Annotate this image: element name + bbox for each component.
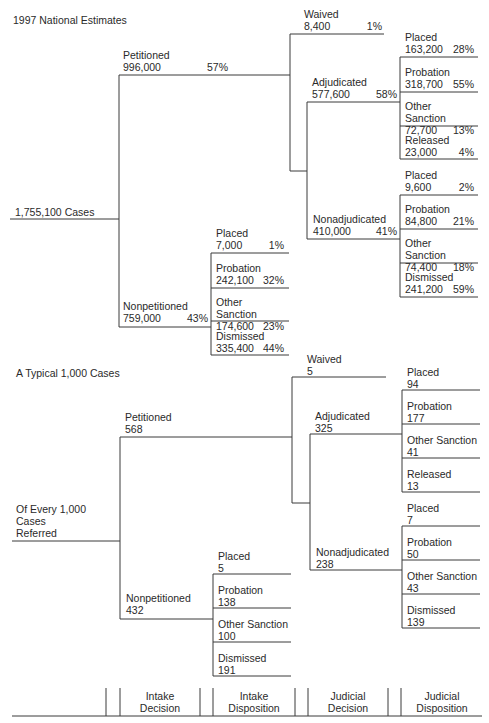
stage-header-intake-decision: IntakeDecision — [120, 690, 200, 714]
disposition-placed: Placed 5 — [218, 550, 250, 574]
disposition-dismissed: Dismissed 139 — [407, 604, 455, 628]
node-petitioned: Petitioned 996,00057% — [123, 49, 228, 73]
node-label: Placed — [407, 502, 439, 514]
node-count: 7 — [407, 514, 439, 526]
node-percent: 1% — [367, 20, 382, 32]
node-label: Other Sanction — [407, 434, 477, 446]
node-label: Dismissed — [218, 652, 266, 664]
node-percent: 41% — [376, 225, 397, 237]
node-label: Other Sanction — [405, 100, 474, 124]
node-waived: Waived 8,4001% — [304, 8, 382, 32]
node-label: Dismissed — [405, 271, 474, 283]
node-percent: 58% — [376, 88, 397, 100]
disposition-placed: Placed 7 — [407, 502, 439, 526]
node-adjudicated: Adjudicated 325 — [315, 410, 370, 434]
node-label: Probation — [216, 262, 284, 274]
node-percent: 32% — [263, 274, 284, 286]
node-label: Waived — [304, 8, 382, 20]
node-count: 241,20059% — [405, 283, 474, 295]
disposition-released: Released 23,0004% — [405, 134, 474, 158]
node-count: 568 — [125, 423, 172, 435]
section-title-national-estimates: 1997 National Estimates — [13, 14, 127, 26]
disposition-placed: Placed 9,6002% — [405, 169, 474, 193]
node-label: Placed — [405, 31, 474, 43]
node-count: 13 — [407, 480, 451, 492]
node-label: Dismissed — [216, 330, 284, 342]
node-label: Other Sanction — [405, 237, 474, 261]
disposition-probation: Probation 84,80021% — [405, 203, 474, 227]
node-label: Other Sanction — [216, 296, 284, 320]
node-percent: 43% — [187, 312, 208, 324]
stage-header-judicial-decision: JudicialDecision — [308, 690, 388, 714]
node-count: 318,70055% — [405, 78, 474, 90]
node-count: 41 — [407, 446, 477, 458]
disposition-probation: Probation 242,10032% — [216, 262, 284, 286]
node-count: 242,10032% — [216, 274, 284, 286]
node-count: 432 — [126, 604, 191, 616]
disposition-dismissed: Dismissed 335,40044% — [216, 330, 284, 354]
node-adjudicated: Adjudicated 577,60058% — [312, 76, 397, 100]
disposition-probation: Probation 50 — [407, 536, 452, 560]
node-label: Dismissed — [407, 604, 455, 616]
node-count: 325 — [315, 422, 370, 434]
root-line: Cases — [16, 515, 86, 527]
node-count: 84,80021% — [405, 215, 474, 227]
node-label: Placed — [216, 227, 284, 239]
node-percent: 57% — [207, 61, 228, 73]
node-label: Adjudicated — [315, 410, 370, 422]
node-count: 996,00057% — [123, 61, 228, 73]
node-label: Probation — [405, 203, 474, 215]
node-count: 410,00041% — [313, 225, 397, 237]
stage-header-judicial-disposition: JudicialDisposition — [401, 690, 483, 714]
node-count: 577,60058% — [312, 88, 397, 100]
node-label: Released — [405, 134, 474, 146]
node-percent: 2% — [459, 181, 474, 193]
node-nonpetitioned: Nonpetitioned 432 — [126, 592, 191, 616]
node-count: 191 — [218, 664, 266, 676]
node-count: 94 — [407, 378, 439, 390]
node-petitioned: Petitioned 568 — [125, 411, 172, 435]
node-label: Placed — [407, 366, 439, 378]
node-count: 163,20028% — [405, 43, 474, 55]
node-label: Waived — [307, 353, 342, 365]
node-percent: 4% — [459, 146, 474, 158]
node-label: Nonpetitioned — [123, 300, 208, 312]
node-count: 8,4001% — [304, 20, 382, 32]
disposition-placed: Placed 7,0001% — [216, 227, 284, 251]
disposition-other-sanction: Other Sanction 41 — [407, 434, 477, 458]
node-count: 139 — [407, 616, 455, 628]
node-label: Nonpetitioned — [126, 592, 191, 604]
node-count: 759,00043% — [123, 312, 208, 324]
disposition-released: Released 13 — [407, 468, 451, 492]
node-count: 23,0004% — [405, 146, 474, 158]
disposition-other-sanction: Other Sanction 174,60023% — [216, 296, 284, 332]
node-percent: 44% — [263, 342, 284, 354]
node-label: Probation — [218, 584, 263, 596]
disposition-dismissed: Dismissed 241,20059% — [405, 271, 474, 295]
node-label: Placed — [218, 550, 250, 562]
disposition-dismissed: Dismissed 191 — [218, 652, 266, 676]
node-count: 177 — [407, 412, 452, 424]
node-percent: 28% — [453, 43, 474, 55]
node-label: Nonadjudicated — [316, 546, 389, 558]
node-count: 335,40044% — [216, 342, 284, 354]
disposition-probation: Probation 318,70055% — [405, 66, 474, 90]
node-percent: 59% — [453, 283, 474, 295]
node-count: 7,0001% — [216, 239, 284, 251]
disposition-other-sanction: Other Sanction 43 — [407, 570, 477, 594]
node-label: Placed — [405, 169, 474, 181]
node-label: Other Sanction — [218, 618, 288, 630]
root-total-cases: 1,755,100 Cases — [15, 206, 94, 218]
node-nonadjudicated: Nonadjudicated 410,00041% — [313, 213, 397, 237]
section-title-typical-1000: A Typical 1,000 Cases — [16, 367, 120, 379]
disposition-other-sanction: Other Sanction 74,40018% — [405, 237, 474, 273]
disposition-placed: Placed 163,20028% — [405, 31, 474, 55]
root-every-1000-cases: Of Every 1,000 Cases Referred — [16, 503, 86, 539]
node-label: Probation — [407, 536, 452, 548]
disposition-placed: Placed 94 — [407, 366, 439, 390]
node-percent: 21% — [453, 215, 474, 227]
node-nonadjudicated: Nonadjudicated 238 — [316, 546, 389, 570]
node-count: 5 — [307, 365, 342, 377]
node-count: 50 — [407, 548, 452, 560]
node-label: Probation — [405, 66, 474, 78]
